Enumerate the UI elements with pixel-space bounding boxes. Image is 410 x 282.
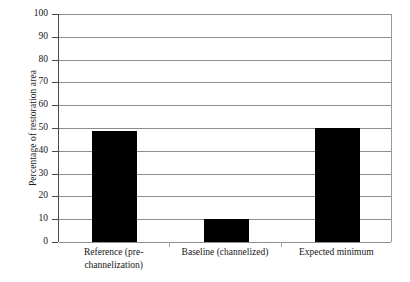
y-tick-label-90: 90 xyxy=(6,32,48,42)
y-tick-label-30: 30 xyxy=(6,169,48,179)
gridline-0 xyxy=(59,242,391,243)
x-axis-label-line: Expected minimum xyxy=(283,246,390,259)
x-axis-label-3: Expected minimum xyxy=(281,246,392,280)
plot-area xyxy=(58,14,392,242)
y-tick-label-40: 40 xyxy=(6,146,48,156)
bar-chart: Percentage of restoration area 100908070… xyxy=(0,0,410,282)
y-tick-label-60: 60 xyxy=(6,100,48,110)
y-tick-label-100: 100 xyxy=(6,9,48,19)
gridline-60 xyxy=(59,105,391,106)
x-axis-label-1: Reference (pre-channelization) xyxy=(58,246,169,280)
bar-2 xyxy=(204,219,249,242)
bar-3 xyxy=(315,128,360,242)
bar-1 xyxy=(92,131,137,242)
x-axis-label-line: Reference (pre- xyxy=(60,246,167,259)
y-tick-label-0: 0 xyxy=(6,237,48,247)
x-axis-label-2: Baseline (channelized) xyxy=(169,246,280,280)
x-axis-label-line: Baseline (channelized) xyxy=(171,246,278,259)
y-tick-mark-0 xyxy=(52,242,58,243)
y-tick-label-20: 20 xyxy=(6,191,48,201)
gridline-80 xyxy=(59,60,391,61)
x-axis-label-group: Reference (pre-channelization)Baseline (… xyxy=(58,246,392,280)
gridline-70 xyxy=(59,82,391,83)
gridline-100 xyxy=(59,14,391,15)
x-axis-label-line: channelization) xyxy=(60,259,167,272)
y-tick-label-80: 80 xyxy=(6,55,48,65)
y-tick-label-70: 70 xyxy=(6,77,48,87)
gridline-90 xyxy=(59,37,391,38)
y-tick-label-50: 50 xyxy=(6,123,48,133)
y-tick-label-10: 10 xyxy=(6,214,48,224)
